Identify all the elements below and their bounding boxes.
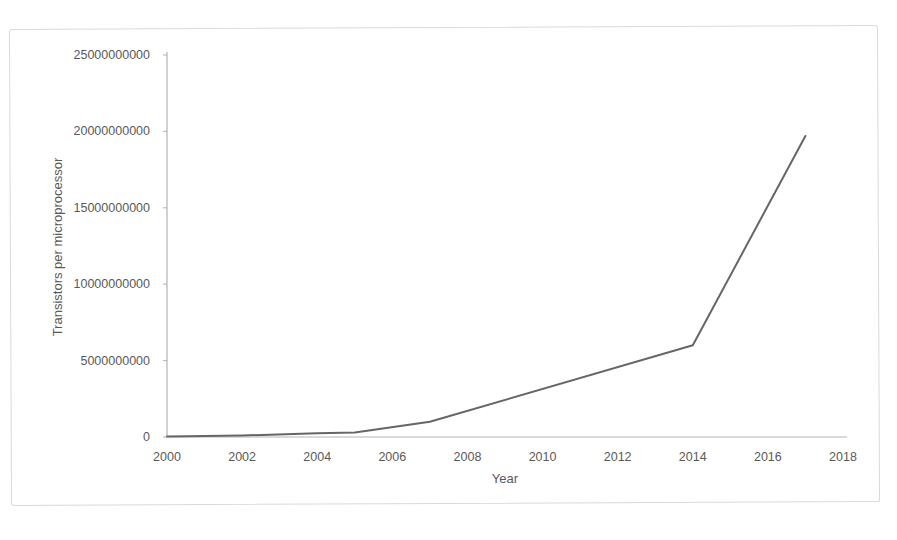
x-tick-label: 2016 <box>754 450 782 464</box>
x-tick-label: 2002 <box>228 450 256 464</box>
y-tick-label: 5000000000 <box>80 354 150 368</box>
x-axis-title: Year <box>167 471 843 486</box>
x-tick-label: 2012 <box>604 450 632 464</box>
x-tick-label: 2014 <box>679 450 707 464</box>
y-tick-label: 20000000000 <box>74 124 151 138</box>
y-axis-title: Transistors per microprocessor <box>50 116 68 378</box>
chart-canvas: 0500000000010000000000150000000002000000… <box>0 0 897 540</box>
x-tick-label: 2018 <box>829 450 857 464</box>
x-tick-label: 2004 <box>303 450 331 464</box>
y-tick-label: 10000000000 <box>74 277 151 291</box>
y-tick-label: 0 <box>143 430 150 444</box>
x-tick-label: 2000 <box>153 450 181 464</box>
line-chart: 0500000000010000000000150000000002000000… <box>0 0 897 540</box>
y-tick-label: 15000000000 <box>74 201 151 215</box>
x-tick-label: 2010 <box>529 450 557 464</box>
x-tick-label: 2006 <box>378 450 406 464</box>
y-tick-label: 25000000000 <box>74 48 151 62</box>
x-tick-label: 2008 <box>454 450 482 464</box>
series-line <box>167 136 805 436</box>
